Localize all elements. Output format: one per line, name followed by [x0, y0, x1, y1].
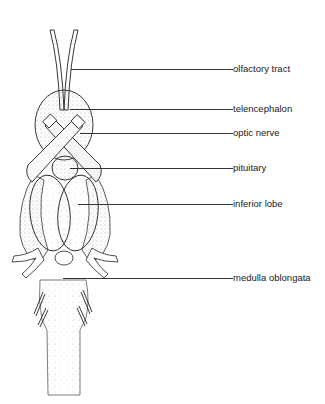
label-olfactory-tract: olfactory tract: [233, 64, 290, 74]
leader-medulla-oblongata: [63, 278, 233, 279]
label-telencephalon: telencephalon: [233, 104, 292, 114]
label-pituitary: pituitary: [233, 163, 266, 173]
leader-pituitary: [70, 168, 233, 169]
leader-optic-nerve: [80, 133, 233, 134]
fish-brain-diagram: olfactory tract telencephalon optic nerv…: [0, 0, 325, 404]
label-inferior-lobe: inferior lobe: [233, 199, 283, 209]
label-medulla-oblongata: medulla oblongata: [233, 273, 311, 283]
leader-inferior-lobe: [78, 204, 233, 205]
medulla-shape: [39, 280, 88, 395]
leader-olfactory-tract: [71, 69, 233, 70]
leader-telencephalon: [70, 109, 233, 110]
label-optic-nerve: optic nerve: [233, 128, 279, 138]
